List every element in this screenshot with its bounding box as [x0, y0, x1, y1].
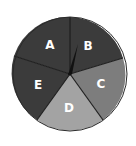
pointer-hub — [68, 72, 71, 75]
spinner: A B C D E — [0, 0, 136, 146]
section-d-label: D — [64, 101, 74, 115]
section-e-label: E — [34, 78, 42, 92]
section-a-label: A — [45, 38, 55, 52]
section-b-label: B — [83, 39, 92, 53]
section-c-label: C — [97, 77, 106, 91]
